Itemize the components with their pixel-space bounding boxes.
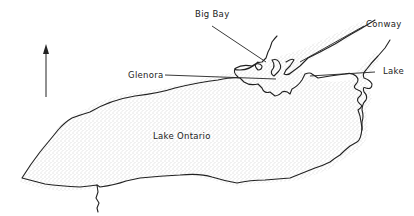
big-bay-leader — [212, 26, 266, 62]
conway-leader — [300, 26, 364, 62]
label-glenora: Glenora — [128, 71, 164, 80]
lake-ontario-map — [0, 0, 414, 216]
label-conway: Conway — [366, 20, 402, 29]
north-arrow-icon — [43, 44, 49, 97]
tributary — [96, 185, 99, 212]
label-lake-ontario: Lake Ontario — [153, 132, 211, 141]
label-lake: Lake — [383, 67, 404, 76]
shore-stipple — [20, 20, 380, 191]
label-big-bay: Big Bay — [195, 10, 229, 19]
